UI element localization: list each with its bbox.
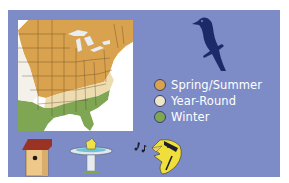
range-map-graphic bbox=[18, 20, 133, 131]
singing-bird-icon bbox=[132, 136, 186, 176]
winter-swatch bbox=[154, 111, 166, 123]
birdbath-icon bbox=[68, 138, 114, 176]
legend-label: Year-Round bbox=[171, 94, 236, 108]
legend-item-winter: Winter bbox=[154, 109, 262, 125]
spring-summer-swatch bbox=[154, 79, 166, 91]
legend-item-year-round: Year-Round bbox=[154, 93, 262, 109]
legend-label: Spring/Summer bbox=[171, 78, 262, 92]
legend-item-spring-summer: Spring/Summer bbox=[154, 77, 262, 93]
legend-label: Winter bbox=[171, 110, 210, 124]
birdhouse-icon bbox=[20, 136, 54, 178]
legend: Spring/Summer Year-Round Winter bbox=[154, 77, 262, 125]
perched-bird-icon bbox=[190, 14, 230, 72]
range-map bbox=[18, 20, 133, 131]
year-round-swatch bbox=[154, 95, 166, 107]
